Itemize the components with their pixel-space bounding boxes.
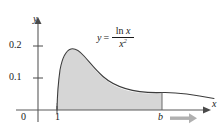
equation-lhs: y — [97, 33, 101, 43]
equation-denominator-exponent: 2 — [124, 38, 127, 44]
y-tick-label-0-1: 0.1 — [9, 72, 22, 82]
x-tick-label-b: b — [158, 112, 163, 122]
natural-log-symbol: ln — [116, 25, 124, 36]
equation-equals-sign: = — [103, 33, 109, 43]
shaded-area-region — [57, 49, 162, 110]
equation-numerator: ln x — [114, 26, 133, 37]
origin-label: 0 — [21, 112, 26, 122]
b-increasing-arrow-icon — [170, 113, 197, 123]
equation-annotation: y = ln x x2 — [97, 26, 134, 49]
equation-denominator: x2 — [117, 38, 128, 49]
x-axis-arrowhead — [203, 107, 211, 114]
x-axis-label: x — [212, 99, 216, 109]
equation-fraction: ln x x2 — [112, 26, 134, 49]
y-axis-label: y — [33, 14, 37, 24]
equation-numerator-variable: x — [126, 25, 130, 36]
x-tick-label-1: 1 — [55, 112, 60, 122]
y-tick-label-0-2: 0.2 — [9, 40, 22, 50]
figure-container: y x 0.2 0.1 0 1 b y = ln x x2 — [0, 0, 223, 127]
